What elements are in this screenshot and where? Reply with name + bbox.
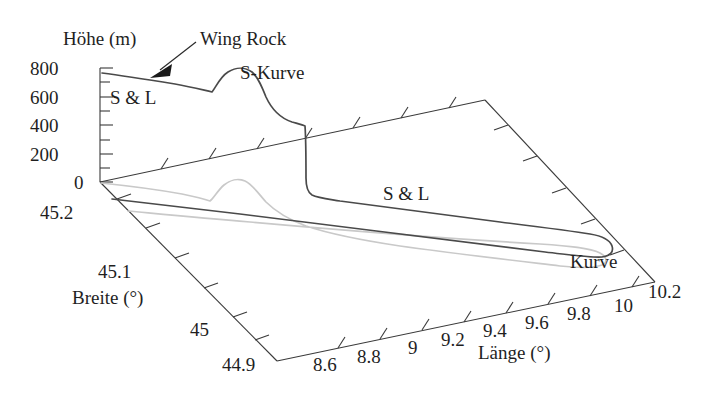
longitude-axis-line [277, 282, 655, 361]
latitude-tick-minor-2 [204, 283, 218, 288]
longitude-tick-9 [422, 319, 429, 330]
height-tick-label-400: 400 [30, 116, 59, 135]
annotation-s-and-l-high: S & L [110, 88, 156, 107]
longitude-tick-label-9-6: 9.6 [525, 313, 549, 332]
longitude-tick-label-8-6: 8.6 [313, 355, 337, 374]
longitude-tick-label-10: 10 [614, 296, 633, 315]
latitude-axis-title: Breite (°) [72, 288, 143, 307]
longitude-axis-title: Länge (°) [478, 343, 550, 362]
height-tick-label-200: 200 [30, 145, 59, 164]
longitude-tick-8-6 [338, 337, 345, 348]
annotation-s-and-l-low: S & L [383, 184, 429, 203]
longitude-tick-label-9-2: 9.2 [441, 330, 465, 349]
trajectory-line [102, 68, 613, 257]
plot-canvas [0, 0, 728, 395]
longitude-tick-label-9-8: 9.8 [567, 304, 591, 323]
height-axis [100, 68, 113, 182]
longitude-tick-label-9: 9 [408, 338, 418, 357]
wing-rock-arrow-line [160, 42, 196, 70]
latitude-tick-minor-1 [146, 223, 160, 228]
right-tick-1 [494, 125, 508, 130]
figure-3d-flight-trajectory: 800 600 400 200 0 Höhe (m) 45.2 45.1 45 … [0, 0, 728, 395]
latitude-tick-label-44-9: 44.9 [222, 355, 255, 374]
latitude-tick-minor-3 [255, 335, 269, 340]
height-tick-label-0: 0 [74, 173, 84, 192]
longitude-tick-label-9-4: 9.4 [483, 321, 507, 340]
latitude-tick-label-45: 45 [190, 320, 209, 339]
annotation-s-kurve: S-Kurve [240, 63, 304, 82]
back-edge-ticks [161, 97, 456, 169]
latitude-tick-45-2 [117, 194, 131, 199]
base-plane-back-edge [100, 100, 485, 182]
height-tick-label-800: 800 [30, 59, 59, 78]
longitude-tick-label-10-2: 10.2 [648, 282, 681, 301]
ground-projection-line [101, 180, 606, 268]
wing-rock-arrow [150, 42, 196, 78]
annotation-wing-rock: Wing Rock [200, 29, 286, 48]
right-tick-2 [523, 156, 537, 161]
wing-rock-arrow-head [150, 64, 172, 78]
latitude-tick-45-1 [175, 253, 189, 258]
height-tick-label-600: 600 [30, 88, 59, 107]
longitude-tick-label-8-8: 8.8 [357, 347, 381, 366]
height-axis-title: Höhe (m) [63, 29, 136, 48]
latitude-tick-label-45-2: 45.2 [40, 203, 73, 222]
longitude-tick-8-8 [380, 328, 387, 339]
right-tick-4 [581, 219, 595, 224]
right-edge-ticks [494, 125, 624, 255]
latitude-tick-45 [233, 312, 247, 317]
annotation-kurve: Kurve [570, 252, 617, 271]
latitude-tick-label-45-1: 45.1 [98, 262, 131, 281]
right-tick-3 [552, 188, 566, 193]
longitude-tick-9-6 [548, 293, 555, 304]
